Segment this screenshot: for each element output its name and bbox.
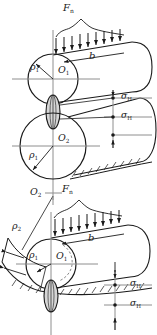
label-width-lower: b xyxy=(88,233,94,243)
label-rho1-upper: ρ1 xyxy=(30,62,39,72)
label-sigmaH-upper-1: σH xyxy=(121,92,132,101)
label-width-upper: b xyxy=(89,51,95,61)
label-force-upper: Fn xyxy=(63,3,74,13)
lower-rho2-construction xyxy=(22,193,62,250)
label-sigmaH-upper-2: σH xyxy=(121,111,132,120)
upper-seat-surface xyxy=(70,162,152,179)
contact-stress-figure: Fn b ρ1 O1 σH σH O2 ρ1 O2 ρ2 Fn b ρ1 O1 … xyxy=(0,0,157,335)
label-rho1-middle: ρ1 xyxy=(29,150,38,160)
label-sigmaH-lower-2: σH xyxy=(130,299,141,308)
label-O2-lower: O2 xyxy=(30,187,41,197)
lower-contact-patch xyxy=(44,280,58,312)
label-rho1-lower: ρ1 xyxy=(29,250,38,260)
upper-contact-patch xyxy=(46,95,60,129)
label-O1-lower: O1 xyxy=(56,251,67,261)
label-force-lower: Fn xyxy=(62,184,73,194)
label-O1-upper: O1 xyxy=(58,65,69,75)
label-sigmaH-lower-1: σH xyxy=(130,279,141,288)
lower-stress-lines xyxy=(104,262,152,330)
label-O2-upper: O2 xyxy=(58,133,69,143)
upper-pair-second-cylinder xyxy=(20,98,156,179)
lower-load-brace xyxy=(54,200,122,218)
upper-load-brace xyxy=(56,19,124,37)
label-rho2-lower: ρ2 xyxy=(12,221,21,231)
